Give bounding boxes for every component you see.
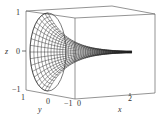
mesh-meridian [34,27,132,52]
y-tick-m1: −1 [64,99,73,108]
z-tick-1: 1 [16,8,20,17]
z-tick-0: 0 [16,47,20,56]
tick-marks [22,51,130,96]
surface-plot: 1 0 −1 z 1 0 −1 y 0 2 x [0,0,158,117]
z-tick-m1: −1 [12,85,21,94]
y-tick-0: 0 [46,97,50,106]
z-axis-label: z [4,47,9,56]
horn-surface-mesh [30,13,132,91]
x-tick-2: 2 [128,94,132,103]
x-axis-label: x [117,105,122,114]
mesh-meridian [34,53,132,78]
y-axis-label: y [37,105,42,114]
x-tick-0: 0 [77,99,81,108]
y-tick-1: 1 [21,93,25,102]
